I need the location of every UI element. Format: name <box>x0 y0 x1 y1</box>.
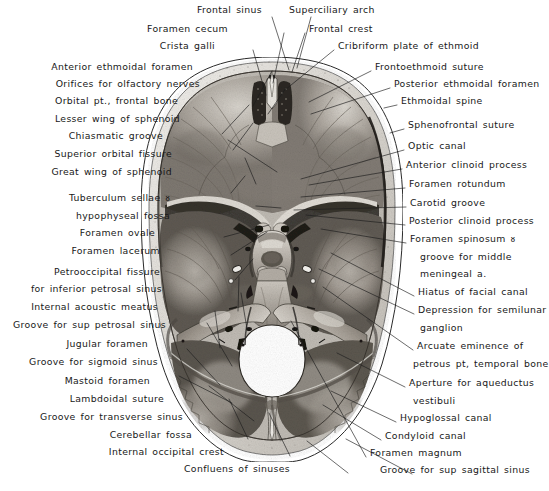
label-carotid-groove: Carotid groove <box>410 197 485 208</box>
label-confluens-of-sinuses: Confluens of sinuses <box>0 463 290 474</box>
label-foramen-magnum: Foramen magnum <box>370 447 462 458</box>
label-frontal-sinus: Frontal sinus <box>0 4 262 15</box>
label-vestibuli: vestibuli <box>413 395 455 406</box>
label-foramen-cecum: Foramen cecum <box>0 23 228 34</box>
label-great-wing-of-sphenoid: Great wing of sphenoid <box>0 166 172 177</box>
label-hiatus-of-facial-canal: Hiatus of facial canal <box>418 286 528 297</box>
label-groove-for-sup-sagittal-sinus: Groove for sup sagittal sinus <box>380 464 530 475</box>
skull-base-photograph <box>141 57 403 462</box>
label-superior-orbital-fissure: Superior orbital fissure <box>0 148 172 159</box>
label-crista-galli: Crista galli <box>0 40 215 51</box>
label-anterior-ethmoidal-foramen: Anterior ethmoidal foramen <box>0 61 193 72</box>
label-groove-for-sigmoid-sinus: Groove for sigmoid sinus <box>0 356 158 367</box>
label-anterior-clinoid-process: Anterior clinoid process <box>406 159 527 170</box>
label-condyloid-canal: Condyloid canal <box>385 430 466 441</box>
label-frontal-crest: Frontal crest <box>309 23 373 34</box>
label-mastoid-foramen: Mastoid foramen <box>0 375 150 386</box>
label-optic-canal: Optic canal <box>408 140 466 151</box>
label-frontoethmoid-suture: Frontoethmoid suture <box>375 61 484 72</box>
label-foramen-ovale: Foramen ovale <box>0 227 155 238</box>
label-posterior-ethmoidal-foramen: Posterior ethmoidal foramen <box>394 78 540 89</box>
label-for-inferior-petrosal-sinus: for inferior petrosal sinus <box>0 283 162 294</box>
label-lambdoidal-suture: Lambdoidal suture <box>0 393 164 404</box>
label-foramen-lacerum: Foramen lacerum <box>0 245 160 256</box>
label-foramen-rotundum: Foramen rotundum <box>409 178 506 189</box>
label-foramen-spinosum: Foramen spinosum ᴕ <box>410 233 515 244</box>
label-groove-sup-petrosal-sinus: Groove for sup petrosal sinus <box>0 319 166 330</box>
label-cribriform-plate-of-ethmoid: Cribriform plate of ethmoid <box>338 40 479 51</box>
label-ethmoidal-spine: Ethmoidal spine <box>401 95 483 106</box>
label-petrous-pt-temporal-bone: petrous pt, temporal bone <box>413 358 549 369</box>
label-groove-for-middle: groove for middle <box>420 251 512 262</box>
label-internal-occipital-crest: Internal occipital crest <box>0 446 224 457</box>
label-aperture-for-aqueductus: Aperture for aqueductus <box>409 377 534 388</box>
label-hypoglossal-canal: Hypoglossal canal <box>400 412 492 423</box>
label-jugular-foramen: Jugular foramen <box>0 338 148 349</box>
label-orbital-pt-frontal-bone: Orbital pt., frontal bone <box>0 95 178 106</box>
label-lesser-wing-of-sphenoid: Lesser wing of sphenoid <box>0 113 180 124</box>
label-sphenofrontal-suture: Sphenofrontal suture <box>408 119 515 130</box>
label-depression-for-semilunar: Depression for semilunar <box>418 304 546 315</box>
label-ganglion: ganglion <box>420 322 463 333</box>
label-petrooccipital-fissure: Petrooccipital fissure <box>0 266 160 277</box>
label-cerebellar-fossa: Cerebellar fossa <box>0 429 192 440</box>
label-chiasmatic-groove: Chiasmatic groove <box>0 130 163 141</box>
label-posterior-clinoid-process: Posterior clinoid process <box>409 215 534 226</box>
label-tuberculum-sellae: Tuberculum sellae ᴕ <box>0 192 170 203</box>
label-hypophyseal-fossa: hypophyseal fossa <box>0 210 170 221</box>
label-superciliary-arch: Superciliary arch <box>289 4 375 15</box>
label-meningeal-a: meningeal a. <box>420 268 486 279</box>
label-orifices-olfactory-nerves: Orifices for olfactory nerves <box>0 78 200 89</box>
label-internal-acoustic-meatus: Internal acoustic meatus <box>0 301 158 312</box>
label-arcuate-eminence-of: Arcuate eminence of <box>417 340 523 351</box>
label-groove-for-transverse-sinus: Groove for transverse sinus <box>0 411 183 422</box>
